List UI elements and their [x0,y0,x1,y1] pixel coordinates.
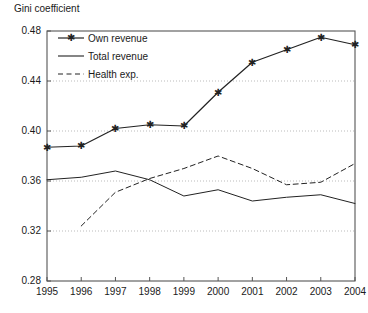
gini-coefficient-chart: Gini coefficient ✱✱✱✱✱✱✱✱✱✱ ✱ 0.480.440.… [0,0,368,313]
svg-text:✱: ✱ [351,39,359,50]
x-tick-label: 2000 [201,286,235,297]
x-tick-label: 2001 [235,286,269,297]
x-tick-label: 1999 [167,286,201,297]
legend-label-health-exp: Health exp. [88,69,139,81]
gridlines [47,81,355,231]
plot-canvas: ✱✱✱✱✱✱✱✱✱✱ ✱ [0,0,368,313]
svg-text:✱: ✱ [77,140,85,151]
y-tick-label: 0.48 [11,25,41,36]
svg-text:✱: ✱ [317,32,325,43]
y-tick-label: 0.28 [11,275,41,286]
y-tick-label: 0.44 [11,75,41,86]
x-tick-label: 2002 [270,286,304,297]
x-tick-label: 2003 [304,286,338,297]
series-own-revenue: ✱✱✱✱✱✱✱✱✱✱ [43,32,359,153]
svg-text:✱: ✱ [248,57,256,68]
svg-text:✱: ✱ [283,44,291,55]
svg-text:✱: ✱ [214,87,222,98]
x-tick-label: 1998 [133,286,167,297]
x-tick-label: 1995 [30,286,64,297]
series-total-revenue [47,171,355,204]
x-tick-label: 1996 [64,286,98,297]
legend-symbols: ✱ [58,32,84,74]
legend-label-own-revenue: Own revenue [88,33,147,45]
series-health-exp [81,156,355,226]
svg-text:✱: ✱ [43,142,51,153]
y-tick-label: 0.32 [11,225,41,236]
svg-text:✱: ✱ [67,32,75,43]
svg-text:✱: ✱ [146,119,154,130]
x-tick-label: 2004 [338,286,368,297]
svg-text:✱: ✱ [180,120,188,131]
y-tick-label: 0.40 [11,125,41,136]
y-tick-label: 0.36 [11,175,41,186]
svg-text:✱: ✱ [111,123,119,134]
legend-label-total-revenue: Total revenue [88,51,148,63]
x-tick-label: 1997 [98,286,132,297]
